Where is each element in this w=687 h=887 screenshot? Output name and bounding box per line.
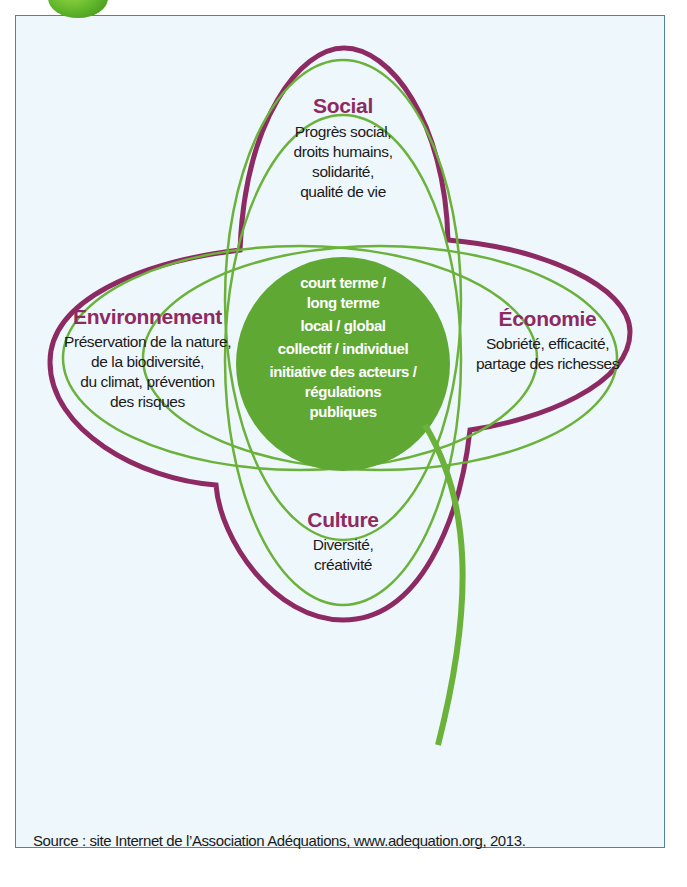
petal-economie: Économie Sobriété, efficacité, partage d… xyxy=(460,307,635,374)
petal-environnement: Environnement Préservation de la nature,… xyxy=(50,305,245,412)
petal-description: Diversité, créativité xyxy=(283,535,403,575)
source-caption: Source : site Internet de l’Association … xyxy=(33,832,525,849)
center-dimensions: court terme / long terme local / global … xyxy=(250,273,436,425)
petal-title: Culture xyxy=(283,508,403,532)
petal-culture: Culture Diversité, créativité xyxy=(283,508,403,575)
petal-social: Social Progrès social, droits humains, s… xyxy=(243,94,443,202)
stem xyxy=(425,425,463,745)
petal-description: Sobriété, efficacité, partage des riches… xyxy=(460,334,635,374)
petal-title: Économie xyxy=(460,307,635,331)
petal-title: Social xyxy=(243,94,443,118)
petal-description: Préservation de la nature, de la biodive… xyxy=(50,332,245,412)
petal-description: Progrès social, droits humains, solidari… xyxy=(243,122,443,202)
petal-title: Environnement xyxy=(50,305,245,329)
